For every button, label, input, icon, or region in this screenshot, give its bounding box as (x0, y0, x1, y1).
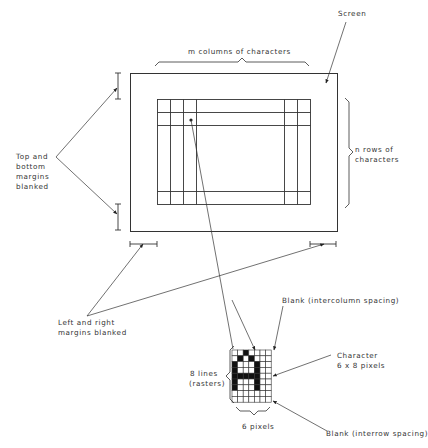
lines-label-line2: (rasters) (189, 379, 225, 389)
screen-label: Screen (338, 9, 366, 19)
columns-label: m columns of characters (188, 47, 291, 57)
bitmap-pixel (254, 396, 260, 402)
bitmap-pixel (260, 367, 266, 373)
top-bottom-label-line4: blanked (16, 182, 49, 192)
bitmap-pixel (238, 367, 244, 373)
bitmap-pixel (260, 373, 266, 379)
top-bottom-label-line2: bottom (16, 162, 46, 172)
character-area-grid (158, 100, 311, 205)
top-bottom-label-line3: margins (16, 172, 49, 182)
bitmap-pixel (243, 356, 249, 362)
bitmap-pixel (249, 396, 255, 402)
bitmap-pixel (232, 356, 238, 362)
bitmap-pixel (266, 391, 272, 397)
bitmap-pixel (260, 391, 266, 397)
bitmap-pixel (232, 379, 238, 385)
bitmap-pixel (243, 373, 249, 379)
bitmap-pixel (243, 350, 249, 356)
left-right-label-line2: margins blanked (58, 328, 127, 338)
rows-label-line1: n rows of (355, 145, 393, 155)
bitmap-pixel (266, 362, 272, 368)
bitmap-pixel (232, 373, 238, 379)
bitmap-pixel (243, 367, 249, 373)
interrow-label: Blank (interrow spacing) (326, 429, 428, 439)
bitmap-pixel (249, 379, 255, 385)
bottom-margin-marker (115, 204, 121, 230)
bitmap-pixel (266, 367, 272, 373)
bitmap-pixel (254, 385, 260, 391)
lines-label-line1: 8 lines (190, 369, 218, 379)
bitmap-pixel (238, 362, 244, 368)
left-right-label-line1: Left and right (58, 318, 115, 328)
bitmap-pixel (260, 396, 266, 402)
character-label-line2: 6 x 8 pixels (337, 361, 385, 371)
bitmap-pixel (243, 391, 249, 397)
bitmap-pixel (232, 362, 238, 368)
bitmap-pixel (266, 373, 272, 379)
bitmap-pixel (260, 385, 266, 391)
bitmap-pixel (232, 391, 238, 397)
intercolumn-label: Blank (intercolumn spacing) (282, 296, 399, 306)
bitmap-pixel (260, 356, 266, 362)
bitmap-pixel (249, 350, 255, 356)
screen-rect (131, 74, 338, 232)
character-bitmap (232, 350, 271, 402)
bitmap-pixel (249, 391, 255, 397)
bitmap-pixel (254, 373, 260, 379)
bitmap-pixel (243, 379, 249, 385)
bitmap-pixel (232, 385, 238, 391)
bitmap-pixel (260, 379, 266, 385)
bitmap-pixel (260, 362, 266, 368)
bitmap-pixel (232, 350, 238, 356)
bitmap-pixel (266, 396, 272, 402)
character-label-line1: Character (337, 351, 378, 361)
bitmap-pixel (266, 356, 272, 362)
bitmap-pixel (232, 367, 238, 373)
bitmap-pixel (266, 379, 272, 385)
bitmap-pixel (254, 367, 260, 373)
pixels-label: 6 pixels (242, 422, 274, 432)
bitmap-pixel (254, 379, 260, 385)
bitmap-pixel (266, 350, 272, 356)
bitmap-pixel (238, 385, 244, 391)
bitmap-pixel (254, 391, 260, 397)
top-bottom-arrows (56, 88, 117, 214)
top-bottom-label-line1: Top and (16, 152, 48, 162)
bitmap-pixel (266, 385, 272, 391)
bitmap-pixel (238, 350, 244, 356)
cell-detail-line (191, 120, 233, 349)
bitmap-pixel (238, 396, 244, 402)
bitmap-pixel (249, 385, 255, 391)
columns-brace (155, 58, 309, 66)
bitmap-pixel (238, 373, 244, 379)
top-margin-marker (115, 73, 121, 99)
rows-label-line2: characters (355, 155, 399, 165)
left-margin-marker (130, 241, 157, 247)
bitmap-pixel (238, 356, 244, 362)
bitmap-pixel (243, 362, 249, 368)
bitmap-pixel (243, 385, 249, 391)
bitmap-pixel (254, 362, 260, 368)
bitmap-pixel (238, 391, 244, 397)
bitmap-pixel (254, 350, 260, 356)
pixels-brace (236, 407, 270, 415)
bitmap-pixel (243, 396, 249, 402)
bitmap-pixel (249, 356, 255, 362)
bitmap-pixel (249, 362, 255, 368)
bitmap-pixel (249, 373, 255, 379)
bitmap-pixel (238, 379, 244, 385)
bitmap-pixel (254, 356, 260, 362)
rows-brace (345, 98, 353, 208)
bitmap-pixel (260, 350, 266, 356)
bitmap-pixel (249, 367, 255, 373)
